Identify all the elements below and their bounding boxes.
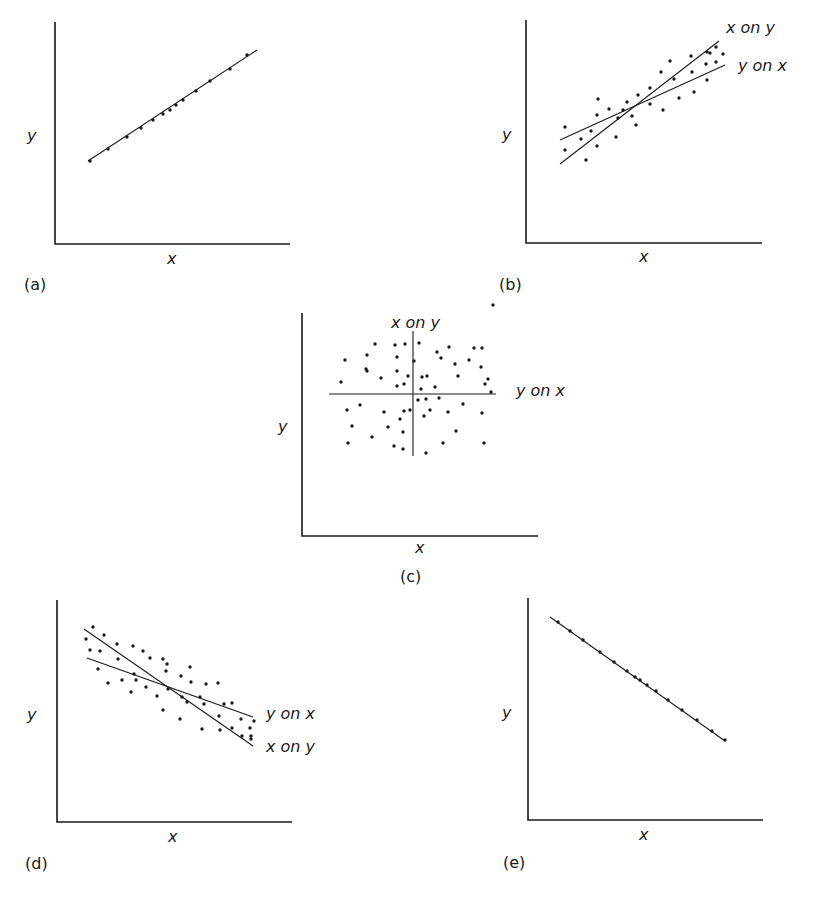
data-point <box>116 657 119 660</box>
panel-b-line-label-x-on-y: x on y <box>725 18 776 37</box>
data-point <box>598 650 601 653</box>
data-point <box>168 108 171 111</box>
panel-b-xlabel: x <box>638 247 649 266</box>
panel-e-regression-line-1 <box>550 617 725 741</box>
data-point <box>392 444 395 447</box>
data-point <box>218 728 221 731</box>
panel-d-regression-line-1 <box>87 658 253 717</box>
panel-e-xlabel: x <box>638 825 649 844</box>
data-point <box>395 355 398 358</box>
panel-d: y x (d) y on x x on y <box>25 600 316 873</box>
data-point <box>417 341 420 344</box>
data-point <box>166 687 169 690</box>
data-point <box>456 374 459 377</box>
data-point <box>581 638 584 641</box>
data-point <box>185 700 188 703</box>
data-point <box>161 657 164 660</box>
data-point <box>648 86 651 89</box>
data-point <box>425 374 428 377</box>
data-point <box>102 633 105 636</box>
panel-d-line-label-y-on-x: y on x <box>265 704 316 723</box>
data-point <box>386 425 389 428</box>
data-point <box>151 118 154 121</box>
panel-b-line-label-y-on-x: y on x <box>737 56 788 75</box>
data-point <box>480 346 483 349</box>
data-point <box>346 441 349 444</box>
data-point <box>616 116 619 119</box>
data-point <box>249 737 252 740</box>
data-point <box>395 384 398 387</box>
data-point <box>161 112 164 115</box>
data-point <box>422 414 425 417</box>
data-point <box>403 342 406 345</box>
data-point <box>98 649 101 652</box>
data-point <box>161 708 164 711</box>
data-point <box>155 694 158 697</box>
data-point <box>420 375 423 378</box>
data-point <box>230 701 233 704</box>
data-point <box>131 644 134 647</box>
data-point <box>723 738 726 741</box>
panel-d-label: (d) <box>25 854 48 873</box>
data-point <box>88 159 91 162</box>
panel-a-xlabel: x <box>166 249 177 268</box>
data-point <box>84 637 87 640</box>
panel-a-label: (a) <box>24 275 46 294</box>
data-point <box>134 678 137 681</box>
data-point <box>625 100 628 103</box>
data-point <box>453 362 456 365</box>
data-point <box>174 103 177 106</box>
data-point <box>106 681 109 684</box>
data-point <box>661 108 664 111</box>
panel-c-xlabel: x <box>414 538 425 557</box>
data-point <box>480 411 483 414</box>
data-point <box>240 734 243 737</box>
panel-b-ylabel: y <box>501 125 512 144</box>
panel-c-line-label-y-on-x: y on x <box>515 381 566 400</box>
data-point <box>165 662 168 665</box>
data-point <box>483 382 486 385</box>
data-point <box>441 441 444 444</box>
data-point <box>714 60 717 63</box>
data-point <box>350 424 353 427</box>
panel-e-axes <box>528 598 763 820</box>
data-point <box>446 410 449 413</box>
data-point <box>461 402 464 405</box>
data-point <box>689 54 692 57</box>
data-point <box>248 726 251 729</box>
data-point <box>401 430 404 433</box>
data-point <box>680 708 683 711</box>
panel-c: y x (c) x on y y on x <box>277 303 566 586</box>
data-point <box>406 374 409 377</box>
panel-c-axes <box>302 313 538 536</box>
data-point <box>222 702 225 705</box>
data-point <box>437 396 440 399</box>
data-point <box>239 717 242 720</box>
data-point <box>96 667 99 670</box>
data-point <box>584 158 587 161</box>
data-point <box>666 698 669 701</box>
data-point <box>638 678 641 681</box>
data-point <box>91 625 94 628</box>
data-point <box>370 435 373 438</box>
data-point <box>595 144 598 147</box>
data-point <box>645 683 648 686</box>
panel-b-regression-line-2 <box>560 65 725 140</box>
data-point <box>132 672 135 675</box>
data-point <box>556 620 559 623</box>
data-point <box>88 648 91 651</box>
data-point <box>398 417 401 420</box>
data-point <box>343 358 346 361</box>
data-point <box>704 62 707 65</box>
data-point <box>106 147 109 150</box>
data-point <box>204 682 207 685</box>
panel-d-ylabel: y <box>26 705 37 724</box>
data-point <box>188 665 191 668</box>
data-point <box>710 729 713 732</box>
data-point <box>695 718 698 721</box>
data-point <box>408 408 411 411</box>
data-point <box>345 408 348 411</box>
data-point <box>393 343 396 346</box>
data-point <box>634 123 637 126</box>
data-point <box>339 380 342 383</box>
